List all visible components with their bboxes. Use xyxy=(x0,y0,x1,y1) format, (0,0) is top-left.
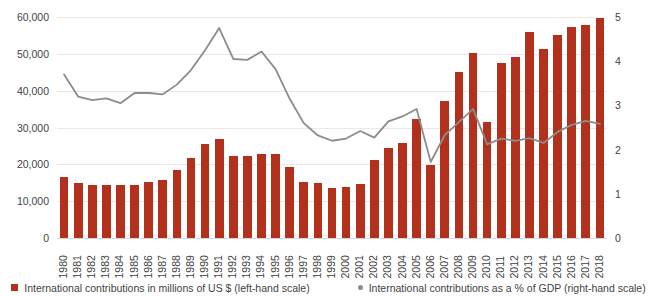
x-axis-tick-2008: 2008 xyxy=(452,255,463,278)
y-axis-right: 012345 xyxy=(611,17,641,238)
x-axis-tick-1993: 1993 xyxy=(241,255,252,278)
x-axis-tick-1989: 1989 xyxy=(184,255,195,278)
legend-item-contributions-usd[interactable]: International contributions in millions … xyxy=(11,282,309,294)
x-axis-tick-2013: 2013 xyxy=(523,255,534,278)
y-axis-left-tick: 30,000 xyxy=(17,123,49,134)
y-axis-left-tick: 40,000 xyxy=(17,86,49,97)
x-axis-tick-2007: 2007 xyxy=(438,255,449,278)
x-axis-tick-1982: 1982 xyxy=(86,255,97,278)
plot-area xyxy=(57,17,607,238)
y-axis-left-tick: 60,000 xyxy=(17,12,49,23)
y-axis-left-tick: 20,000 xyxy=(17,159,49,170)
x-axis-tick-2015: 2015 xyxy=(551,255,562,278)
x-axis-tick-2004: 2004 xyxy=(396,255,407,278)
x-axis-tick-1986: 1986 xyxy=(142,255,153,278)
x-axis-tick-1987: 1987 xyxy=(156,255,167,278)
x-axis-tick-2003: 2003 xyxy=(382,255,393,278)
x-axis-tick-2016: 2016 xyxy=(565,255,576,278)
x-axis-tick-1995: 1995 xyxy=(269,255,280,278)
y-axis-right-tick: 4 xyxy=(615,56,621,67)
x-axis-tick-1990: 1990 xyxy=(199,255,210,278)
y-axis-right-tick: 0 xyxy=(615,233,621,244)
y-axis-left-tick: 0 xyxy=(43,233,49,244)
y-axis-left-tick: 10,000 xyxy=(17,196,49,207)
x-axis-tick-2012: 2012 xyxy=(509,255,520,278)
chart-legend: International contributions in millions … xyxy=(0,279,657,296)
x-axis-tick-2000: 2000 xyxy=(340,255,351,278)
x-axis-tick-2010: 2010 xyxy=(481,255,492,278)
x-axis: 1980198119821983198419851986198719881989… xyxy=(57,240,607,278)
x-axis-tick-1980: 1980 xyxy=(58,255,69,278)
y-axis-left: 010,00020,00030,00040,00050,00060,000 xyxy=(0,17,53,238)
x-axis-tick-1991: 1991 xyxy=(213,255,224,278)
x-axis-tick-2001: 2001 xyxy=(354,255,365,278)
y-axis-right-tick: 1 xyxy=(615,189,621,200)
legend-label-contributions-usd: International contributions in millions … xyxy=(24,282,309,294)
x-axis-tick-2005: 2005 xyxy=(410,255,421,278)
y-axis-right-tick: 3 xyxy=(615,100,621,111)
gridline xyxy=(57,238,607,239)
legend-label-contributions-gdp: International contributions as a % of GD… xyxy=(369,282,646,294)
x-axis-tick-1981: 1981 xyxy=(72,255,83,278)
y-axis-right-tick: 5 xyxy=(615,12,621,23)
x-axis-tick-1994: 1994 xyxy=(255,255,266,278)
x-axis-tick-2002: 2002 xyxy=(368,255,379,278)
x-axis-tick-2017: 2017 xyxy=(579,255,590,278)
y-axis-right-tick: 2 xyxy=(615,145,621,156)
x-axis-tick-1999: 1999 xyxy=(326,255,337,278)
x-axis-tick-1988: 1988 xyxy=(170,255,181,278)
dot-swatch-icon xyxy=(358,285,363,290)
legend-item-contributions-gdp[interactable]: International contributions as a % of GD… xyxy=(358,282,646,294)
x-axis-tick-1997: 1997 xyxy=(297,255,308,278)
x-axis-tick-1984: 1984 xyxy=(114,255,125,278)
x-axis-tick-1996: 1996 xyxy=(283,255,294,278)
x-axis-tick-2006: 2006 xyxy=(424,255,435,278)
x-axis-tick-1983: 1983 xyxy=(100,255,111,278)
line-series xyxy=(57,17,607,238)
y-axis-left-tick: 50,000 xyxy=(17,49,49,60)
x-axis-tick-1992: 1992 xyxy=(227,255,238,278)
x-axis-tick-2009: 2009 xyxy=(467,255,478,278)
chart-container: 010,00020,00030,00040,00050,00060,000 01… xyxy=(0,0,657,296)
x-axis-tick-2018: 2018 xyxy=(593,255,604,278)
square-swatch-icon xyxy=(11,284,18,291)
x-axis-tick-1998: 1998 xyxy=(311,255,322,278)
x-axis-tick-1985: 1985 xyxy=(128,255,139,278)
x-axis-tick-2014: 2014 xyxy=(537,255,548,278)
x-axis-tick-2011: 2011 xyxy=(495,255,506,278)
